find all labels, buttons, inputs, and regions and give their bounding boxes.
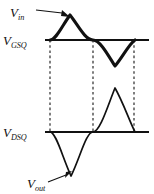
label-v-out-base: V — [27, 176, 35, 191]
waveform-figure: Vin VGSQ VDSQ Vout — [0, 0, 154, 194]
v-in-leader-line — [36, 10, 62, 13]
label-v-gsq-subscript: GSQ — [11, 41, 27, 50]
label-v-dsq: VDSQ — [3, 124, 27, 140]
label-v-dsq-subscript: DSQ — [11, 133, 27, 142]
label-v-in-subscript: in — [18, 13, 24, 22]
label-v-out: Vout — [27, 175, 45, 191]
label-v-out-subscript: out — [35, 184, 45, 193]
waveform-canvas — [0, 0, 154, 194]
v-out-leader-line — [48, 175, 66, 182]
v-in-leader-arrow-icon — [61, 10, 70, 17]
label-v-in-base: V — [10, 5, 18, 20]
label-v-gsq-base: V — [3, 33, 11, 48]
label-v-dsq-base: V — [3, 125, 11, 140]
label-v-gsq: VGSQ — [3, 32, 27, 48]
label-v-in: Vin — [10, 4, 24, 20]
